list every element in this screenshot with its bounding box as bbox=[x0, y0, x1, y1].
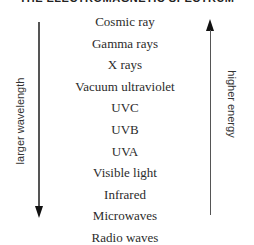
band-radio-waves: Radio waves bbox=[60, 227, 190, 245]
band-visible-light: Visible light bbox=[60, 162, 190, 184]
band-infrared: Infrared bbox=[60, 184, 190, 206]
right-arrow-line bbox=[210, 30, 212, 215]
right-axis-label: higher energy bbox=[226, 54, 238, 154]
band-uvb: UVB bbox=[60, 119, 190, 141]
band-uvc: UVC bbox=[60, 97, 190, 119]
left-axis-label: larger wavelength bbox=[14, 71, 26, 171]
diagram-title: THE ELECTROMAGNETIC SPECTRUM bbox=[0, 0, 254, 4]
spectrum-band-list: Cosmic ray Gamma rays X rays Vacuum ultr… bbox=[60, 11, 190, 245]
band-uva: UVA bbox=[60, 141, 190, 163]
band-vacuum-ultraviolet: Vacuum ultraviolet bbox=[60, 76, 190, 98]
band-cosmic-ray: Cosmic ray bbox=[60, 11, 190, 33]
left-arrow-line bbox=[38, 22, 40, 208]
band-x-rays: X rays bbox=[60, 54, 190, 76]
down-arrowhead-icon bbox=[35, 206, 43, 218]
band-gamma-rays: Gamma rays bbox=[60, 33, 190, 55]
band-microwaves: Microwaves bbox=[60, 205, 190, 227]
